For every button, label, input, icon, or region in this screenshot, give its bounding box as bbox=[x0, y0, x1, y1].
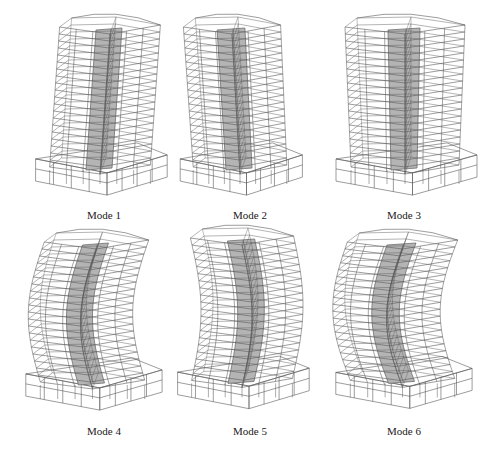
caption-mode-6: Mode 6 bbox=[387, 425, 421, 437]
building-wireframe-mode-2 bbox=[175, 22, 305, 207]
building-wireframe-mode-5 bbox=[172, 233, 312, 421]
caption-mode-2: Mode 2 bbox=[233, 209, 267, 221]
mode-panel-1 bbox=[30, 22, 170, 207]
building-wireframe-mode-3 bbox=[330, 22, 480, 207]
mode-panel-4 bbox=[20, 237, 165, 422]
caption-mode-5: Mode 5 bbox=[233, 425, 267, 437]
caption-mode-1: Mode 1 bbox=[87, 209, 121, 221]
mode-panel-3 bbox=[330, 22, 480, 207]
caption-mode-3: Mode 3 bbox=[387, 209, 421, 221]
caption-mode-4: Mode 4 bbox=[87, 425, 121, 437]
mode-panel-6 bbox=[330, 237, 475, 420]
mode-panel-2 bbox=[175, 22, 305, 207]
building-wireframe-mode-1 bbox=[30, 22, 170, 207]
building-wireframe-mode-4 bbox=[20, 237, 165, 422]
mode-panel-5 bbox=[172, 233, 312, 421]
mode-shapes-figure: Mode 1 Mode 2 Mode 3 Mode 4 Mode 5 Mode … bbox=[0, 0, 503, 452]
building-wireframe-mode-6 bbox=[330, 237, 475, 420]
